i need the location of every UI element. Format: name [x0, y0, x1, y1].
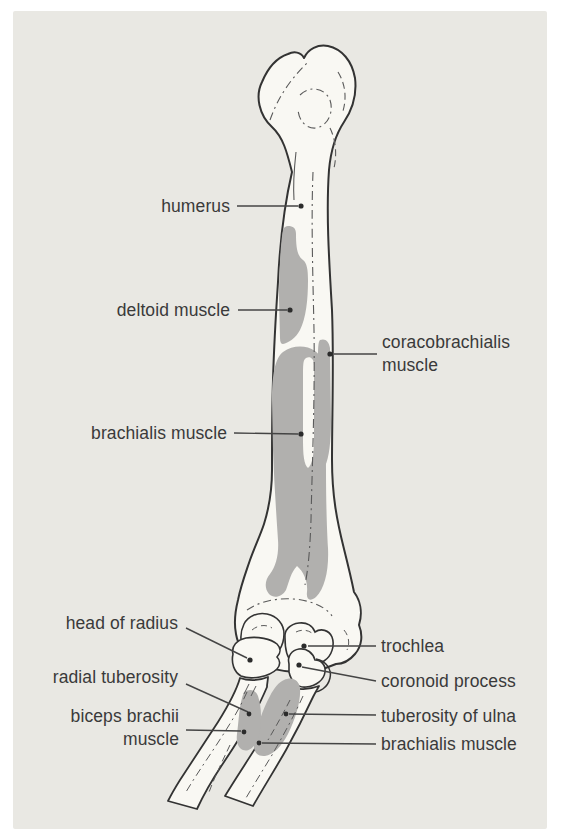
label-humerus: humerus	[161, 195, 230, 218]
label-coronoid-process: coronoid process	[381, 670, 516, 693]
label-biceps-brachii-muscle: biceps brachii muscle	[61, 705, 179, 751]
label-trochlea: trochlea	[381, 635, 444, 658]
humerus-bone	[235, 46, 361, 673]
label-brachialis-muscle-shaft: brachialis muscle	[91, 422, 227, 445]
label-deltoid-muscle: deltoid muscle	[117, 299, 230, 322]
coracobrachialis-attachment-shade	[318, 339, 331, 466]
label-tuberosity-of-ulna: tuberosity of ulna	[381, 705, 516, 728]
label-head-of-radius: head of radius	[66, 612, 178, 635]
label-coracobrachialis-muscle: coracobrachialis muscle	[382, 331, 514, 377]
label-radial-tuberosity: radial tuberosity	[53, 666, 178, 689]
leader-coracobrachialis	[327, 351, 377, 356]
label-brachialis-muscle-distal: brachialis muscle	[381, 733, 517, 756]
anatomy-diagram-page: humerus deltoid muscle coracobrachialis …	[0, 0, 566, 840]
